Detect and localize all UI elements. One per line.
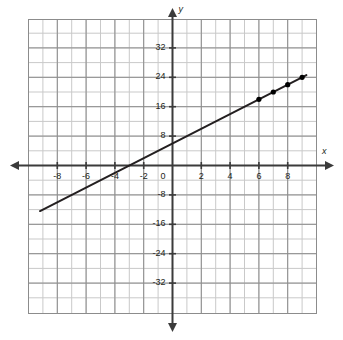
data-point xyxy=(256,97,261,102)
y-tick-label: -32 xyxy=(152,277,165,287)
x-tick-label: -2 xyxy=(140,171,148,181)
x-tick-label: 6 xyxy=(256,171,261,181)
y-tick-label: 16 xyxy=(155,101,165,111)
x-tick-label: -8 xyxy=(53,171,61,181)
y-axis-arrow-up xyxy=(168,8,177,17)
x-axis-arrow-left xyxy=(10,161,19,170)
data-point xyxy=(285,82,290,87)
y-tick-label: 24 xyxy=(155,71,165,81)
y-tick-label: -16 xyxy=(152,218,165,228)
y-tick-label: 32 xyxy=(155,42,165,52)
x-tick-label: 8 xyxy=(285,171,290,181)
x-tick-label: 4 xyxy=(228,171,233,181)
x-tick-label: 2 xyxy=(199,171,204,181)
data-point xyxy=(300,75,305,80)
data-point xyxy=(271,89,276,94)
y-tick-label: -8 xyxy=(157,189,165,199)
y-tick-label: -24 xyxy=(152,248,165,258)
y-axis-label: y xyxy=(179,4,184,14)
y-axis-arrow-down xyxy=(168,323,177,332)
graph-canvas xyxy=(0,0,343,340)
y-tick-label: 8 xyxy=(160,130,165,140)
x-axis-label: x xyxy=(322,146,327,156)
origin-label: 0 xyxy=(160,171,165,181)
x-axis-arrow-right xyxy=(325,161,334,170)
x-tick-label: -6 xyxy=(82,171,90,181)
x-tick-label: -4 xyxy=(111,171,119,181)
